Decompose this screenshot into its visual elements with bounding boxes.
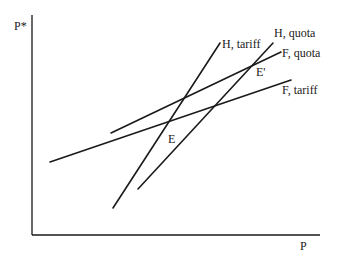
x-axis-label: P [300, 239, 307, 253]
point-e-label: E [168, 132, 175, 146]
equilibrium-diagram: P* P H, tariff H, quota F, quota F, tari… [0, 0, 340, 258]
curve-h-tariff [113, 43, 220, 208]
label-h-quota: H, quota [274, 26, 316, 40]
y-axis-label: P* [14, 19, 27, 33]
label-f-tariff: F, tariff [282, 83, 317, 97]
label-f-quota: F, quota [282, 46, 321, 60]
point-e-prime-label: E' [256, 65, 266, 79]
curve-f-tariff [50, 80, 291, 162]
label-h-tariff: H, tariff [222, 37, 260, 51]
